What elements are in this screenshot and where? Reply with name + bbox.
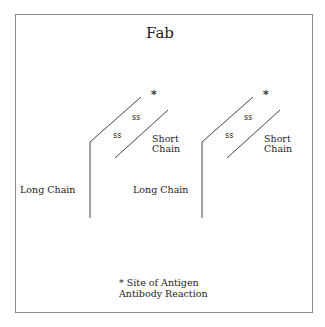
legend-line-2: Antibody Reaction [119,289,208,300]
middle-long-chain-label: Long Chain [133,185,188,195]
left-disulfide-upper-label: ss [132,114,140,122]
right-disulfide-upper-label: ss [244,114,252,122]
right-antigen-site-star: * [263,89,269,101]
right-short-chain-label: Short Chain [264,134,292,154]
left-short-chain-label: Short Chain [152,134,180,154]
diagram-title: Fab [146,26,174,42]
left-antigen-site-star: * [151,89,157,101]
left-disulfide-lower-label: ss [113,132,121,140]
left-long-chain-label: Long Chain [20,185,75,195]
legend-note: * Site of Antigen Antibody Reaction [119,278,208,300]
right-disulfide-lower-label: ss [225,132,233,140]
